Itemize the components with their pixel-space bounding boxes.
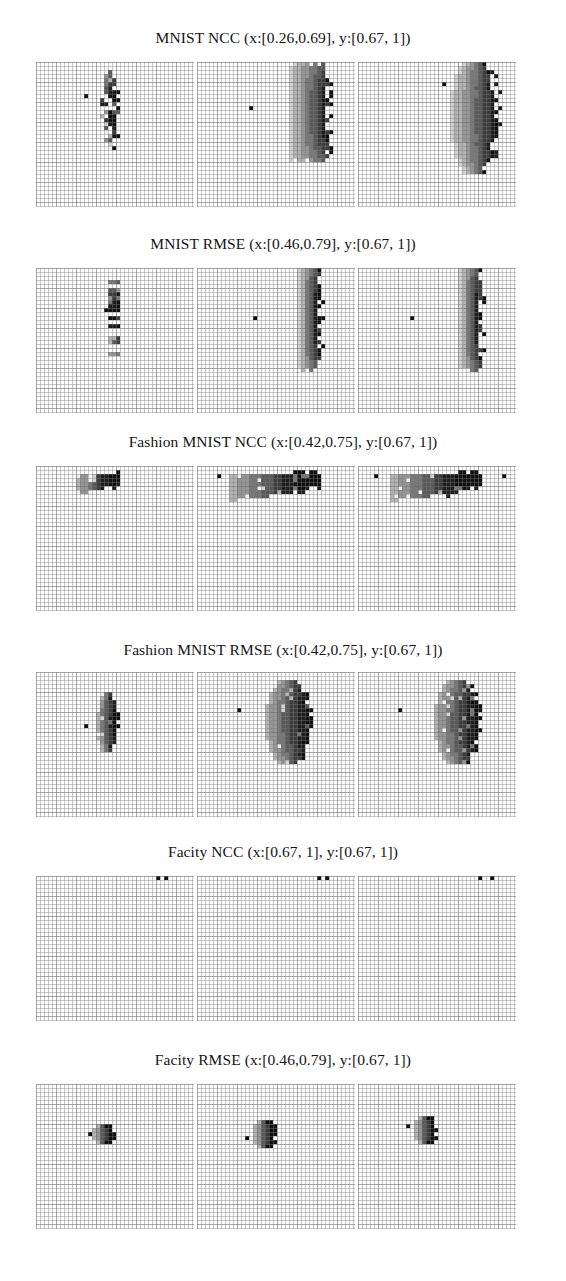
heatmap-cell xyxy=(301,756,305,760)
heatmap-cell xyxy=(116,316,120,320)
heatmap-cell xyxy=(104,102,108,106)
heatmap-outlier-mark xyxy=(104,308,108,312)
heatmap-panel-facity-rmse-1 xyxy=(197,1084,355,1229)
heatmap-cell xyxy=(498,106,502,110)
heatmap-cell xyxy=(426,494,430,498)
heatmap-cell xyxy=(321,300,325,304)
heatmap-outlier-mark xyxy=(245,1136,249,1140)
heatmap-cell xyxy=(325,118,329,122)
heatmap-cell xyxy=(112,1136,116,1140)
heatmap-cells-mnist-ncc-0 xyxy=(36,62,194,207)
chart-title-mnist-ncc: MNIST NCC (x:[0.26,0.69], y:[0.67, 1]) xyxy=(0,30,566,46)
heatmap-cell xyxy=(317,486,321,490)
heatmap-panel-facity-rmse-2 xyxy=(358,1084,516,1229)
heatmap-outlier-mark xyxy=(478,876,482,880)
chart-title-facity-ncc: Facity NCC (x:[0.67, 1], y:[0.67, 1]) xyxy=(0,844,566,860)
heatmap-cell xyxy=(478,708,482,712)
heatmap-cell xyxy=(116,324,120,328)
heatmap-cells-mnist-rmse-0 xyxy=(36,268,194,413)
heatmap-cell xyxy=(466,760,470,764)
heatmap-outlier-mark xyxy=(410,316,414,320)
heatmap-cell xyxy=(474,692,478,696)
heatmap-cell xyxy=(116,716,120,720)
heatmap-cell xyxy=(301,470,305,474)
heatmap-cell xyxy=(482,162,486,166)
heatmap-cell xyxy=(321,158,325,162)
heatmap-panel-facity-ncc-2 xyxy=(358,876,516,1021)
heatmap-panel-fashion-mnist-ncc-0 xyxy=(36,466,194,611)
heatmap-cell xyxy=(462,470,466,474)
heatmap-outlier-mark xyxy=(406,1124,410,1128)
heatmap-cell xyxy=(478,716,482,720)
heatmap-cell xyxy=(474,368,478,372)
heatmap-cell xyxy=(112,82,116,86)
heatmap-cell xyxy=(116,280,120,284)
heatmap-cells-mnist-rmse-2 xyxy=(358,268,516,413)
heatmap-cells-facity-rmse-0 xyxy=(36,1084,194,1229)
heatmap-cell xyxy=(329,130,333,134)
heatmap-cell xyxy=(321,316,325,320)
heatmap-cell xyxy=(317,320,321,324)
heatmap-panel-mnist-ncc-0 xyxy=(36,62,194,207)
heatmap-cells-facity-ncc-2 xyxy=(358,876,516,1021)
heatmap-cell xyxy=(317,332,321,336)
heatmap-cell xyxy=(317,304,321,308)
heatmap-outlier-mark xyxy=(398,708,402,712)
heatmap-cell xyxy=(273,1140,277,1144)
heatmap-cell xyxy=(321,344,325,348)
heatmap-outlier-mark xyxy=(88,1132,92,1136)
heatmap-cells-mnist-ncc-2 xyxy=(358,62,516,207)
heatmap-cell xyxy=(478,728,482,732)
heatmap-outlier-mark xyxy=(249,106,253,110)
heatmap-panel-facity-ncc-1 xyxy=(197,876,355,1021)
heatmap-cell xyxy=(301,368,305,372)
heatmap-cell xyxy=(494,134,498,138)
heatmap-cell xyxy=(478,364,482,368)
heatmap-cell xyxy=(478,268,482,272)
heatmap-cells-mnist-ncc-1 xyxy=(197,62,355,207)
heatmap-cell xyxy=(269,1144,273,1148)
heatmap-cell xyxy=(305,486,309,490)
heatmap-outlier-mark xyxy=(164,876,168,880)
heatmap-panel-mnist-ncc-2 xyxy=(358,62,516,207)
heatmap-cell xyxy=(233,498,237,502)
heatmap-cell xyxy=(446,494,450,498)
heatmap-cell xyxy=(301,158,305,162)
heatmap-cell xyxy=(498,90,502,94)
heatmap-cell xyxy=(494,82,498,86)
heatmap-cell xyxy=(329,102,333,106)
chart-title-fashion-mnist-rmse: Fashion MNIST RMSE (x:[0.42,0.75], y:[0.… xyxy=(0,642,566,658)
heatmap-outlier-mark xyxy=(374,474,378,478)
heatmap-cell xyxy=(108,748,112,752)
heatmap-cell xyxy=(116,98,120,102)
heatmap-cell xyxy=(289,490,293,494)
heatmap-panel-facity-rmse-0 xyxy=(36,1084,194,1229)
heatmap-cell xyxy=(329,94,333,98)
chart-title-mnist-rmse: MNIST RMSE (x:[0.46,0.79], y:[0.67, 1]) xyxy=(0,236,566,252)
heatmap-outlier-mark xyxy=(237,708,241,712)
heatmap-cell xyxy=(309,724,313,728)
heatmap-cell xyxy=(305,696,309,700)
heatmap-panel-fashion-mnist-rmse-0 xyxy=(36,672,194,817)
heatmap-cell xyxy=(486,158,490,162)
heatmap-cell xyxy=(309,368,313,372)
heatmap-cell xyxy=(116,482,120,486)
chart-title-facity-rmse: Facity RMSE (x:[0.46,0.79], y:[0.67, 1]) xyxy=(0,1052,566,1068)
heatmap-cell xyxy=(494,154,498,158)
heatmap-cells-fashion-mnist-rmse-0 xyxy=(36,672,194,817)
heatmap-cell xyxy=(88,490,92,494)
heatmap-panel-mnist-rmse-1 xyxy=(197,268,355,413)
heatmap-cell xyxy=(430,1140,434,1144)
heatmap-outlier-mark xyxy=(490,876,494,880)
heatmap-cell xyxy=(116,352,120,356)
heatmap-cell xyxy=(494,74,498,78)
heatmap-cell xyxy=(329,114,333,118)
heatmap-cell xyxy=(100,486,104,490)
heatmap-cell xyxy=(494,110,498,114)
heatmap-cells-mnist-rmse-1 xyxy=(197,268,355,413)
heatmap-cell xyxy=(474,748,478,752)
heatmap-cell xyxy=(482,300,486,304)
heatmap-outlier-mark xyxy=(502,474,506,478)
heatmap-cells-fashion-mnist-ncc-2 xyxy=(358,466,516,611)
heatmap-cells-facity-rmse-1 xyxy=(197,1084,355,1229)
